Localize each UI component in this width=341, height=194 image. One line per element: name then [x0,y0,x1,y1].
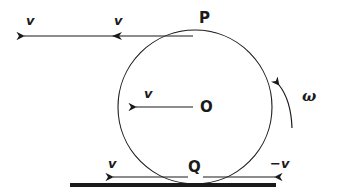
top-near-velocity-label: v [114,14,122,27]
bottom-right-velocity-label: −v [270,157,289,170]
rotation-arc-arrow [279,85,292,128]
rolling-wheel-diagram [0,0,341,194]
ground-surface [70,183,276,187]
top-far-velocity-label: v [26,14,34,27]
center-velocity-label: v [144,87,152,100]
point-p-label: P [199,11,210,26]
point-o-label: O [200,100,213,115]
point-q-label: Q [188,160,201,175]
omega-label: ω [302,89,316,104]
bottom-left-velocity-label: v [108,157,116,170]
